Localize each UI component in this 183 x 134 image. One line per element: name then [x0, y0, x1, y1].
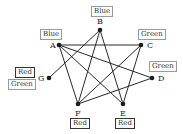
color-tag-e-red: Red	[115, 118, 135, 129]
node-G	[47, 76, 52, 81]
node-label-C: C	[147, 41, 153, 50]
node-label-E: E	[120, 109, 126, 118]
node-B	[98, 28, 103, 33]
node-label-D: D	[158, 74, 164, 83]
color-tag-c-green: Green	[138, 29, 166, 40]
node-label-F: F	[75, 109, 81, 118]
node-label-G: G	[38, 74, 44, 83]
color-tag-b-blue: Blue	[91, 6, 113, 17]
color-tag-d-green: Green	[149, 61, 177, 72]
color-tag-a-blue: Blue	[40, 29, 62, 40]
node-label-B: B	[97, 17, 103, 26]
edge-B-F	[78, 30, 100, 104]
node-D	[150, 76, 155, 81]
color-tag-g-red: Red	[15, 67, 35, 78]
node-E	[121, 102, 126, 107]
edge-D-F	[78, 78, 152, 104]
node-C	[139, 43, 144, 48]
color-tag-f-red: Red	[70, 118, 90, 129]
node-A	[57, 43, 62, 48]
color-tag-g-green: Green	[8, 79, 36, 90]
node-label-A: A	[49, 41, 56, 50]
edge-A-D	[59, 45, 152, 78]
node-F	[76, 102, 81, 107]
